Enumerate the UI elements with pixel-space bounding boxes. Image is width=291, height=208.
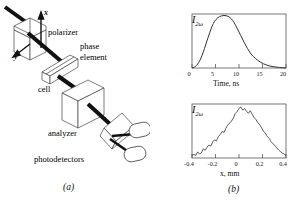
top-plot-xtick-2: 10	[231, 70, 241, 77]
cell-label: cell	[38, 85, 50, 94]
top-plot-xtick-3: 15	[255, 70, 265, 77]
top-plot-frame	[192, 14, 286, 68]
bottom-plot-xlabel: x, mm	[220, 169, 239, 178]
y-axis-label: y	[14, 53, 18, 61]
panel-a-caption: (a)	[63, 183, 74, 193]
analyzer-label: analyzer	[48, 129, 77, 138]
phase-element-label-line2: element	[80, 53, 107, 62]
bottom-plot-xtick-0: -0.4	[183, 160, 195, 167]
bottom-plot-xtick-1: -0.2	[207, 160, 219, 167]
top-plot-ylabel: I2ω	[192, 14, 203, 27]
bottom-plot-frame	[192, 104, 286, 158]
cell-cube	[62, 80, 104, 128]
panel-b-caption: (b)	[228, 185, 239, 195]
photodetectors-label: photodetectors	[34, 155, 84, 164]
x-axis-label: x	[44, 9, 48, 17]
bottom-plot-xtick-4: 0.4	[277, 160, 289, 167]
top-plot-xtick-1: 5	[208, 70, 218, 77]
bottom-plot-ylabel: I2ω	[192, 104, 203, 117]
bottom-plot-xtick-2: 0	[231, 160, 241, 167]
bottom-plot-xtick-3: 0.2	[254, 160, 266, 167]
phase-element-label-line1: phase	[80, 42, 99, 51]
top-plot-ylabel-sub: 2ω	[195, 20, 203, 27]
top-plot-xtick-4: 20	[278, 70, 288, 77]
top-plot-xlabel: Time, ns	[213, 79, 239, 88]
photodetector-2	[123, 145, 147, 163]
bottom-plot-ylabel-sub: 2ω	[195, 110, 203, 117]
figure-root: x y polarizer phase element cell analyze…	[0, 0, 291, 208]
polarizer-label: polarizer	[48, 28, 78, 37]
top-plot-xtick-0: 0	[184, 70, 194, 77]
